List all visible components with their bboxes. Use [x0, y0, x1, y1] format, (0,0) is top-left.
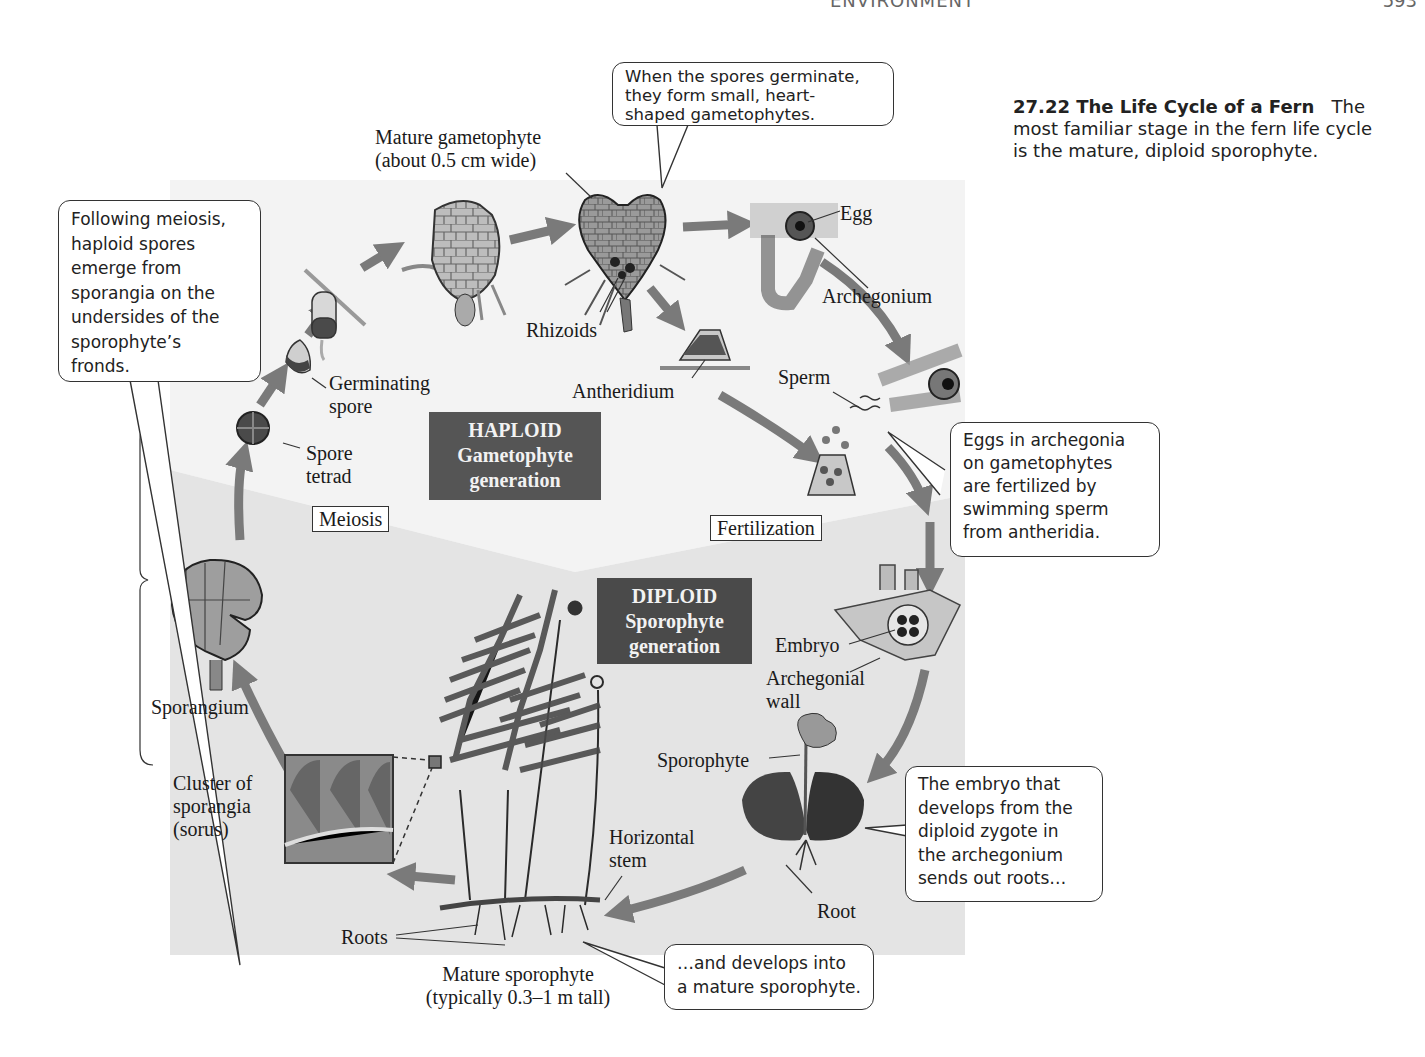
- label-line: Cluster of: [173, 772, 252, 795]
- antheridium-label: Antheridium: [572, 380, 674, 403]
- callout-meiosis: Following meiosis, haploid spores emerge…: [58, 200, 261, 382]
- sperm-label: Sperm: [778, 366, 830, 389]
- label-line: Germinating: [329, 372, 430, 395]
- callout-line: a mature sporophyte.: [677, 975, 861, 999]
- mature-sporophyte-label: Mature sporophyte (typically 0.3–1 m tal…: [413, 963, 623, 1009]
- callout-line: fronds.: [71, 354, 248, 379]
- callout-line: are fertilized by: [963, 475, 1147, 498]
- label-line: Horizontal: [609, 826, 695, 849]
- callout-line: they form small, heart-: [625, 86, 881, 105]
- gen-line: DIPLOID: [597, 584, 752, 609]
- archegonium-label: Archegonium: [822, 285, 932, 308]
- label-line: spore: [329, 395, 430, 418]
- root-label: Root: [817, 900, 856, 923]
- embryo-label: Embryo: [775, 634, 839, 657]
- label-line: (sorus): [173, 818, 252, 841]
- label-line: tetrad: [306, 465, 353, 488]
- callout-line: shaped gametophytes.: [625, 105, 881, 124]
- spore-tetrad-label: Spore tetrad: [306, 442, 353, 488]
- callout-line: diploid zygote in: [918, 820, 1090, 844]
- label-line: sporangia: [173, 795, 252, 818]
- gen-line: generation: [597, 634, 752, 659]
- callout-line: the archegonium: [918, 844, 1090, 868]
- callout-embryo: The embryo that develops from the diploi…: [905, 766, 1103, 902]
- callout-line: Following meiosis,: [71, 207, 248, 232]
- roots-label: Roots: [341, 926, 388, 949]
- germinating-spore-label: Germinating spore: [329, 372, 430, 418]
- diploid-generation-label: DIPLOID Sporophyte generation: [597, 578, 752, 664]
- haploid-generation-label: HAPLOID Gametophyte generation: [429, 412, 601, 500]
- callout-line: haploid spores: [71, 232, 248, 257]
- callout-line: When the spores germinate,: [625, 67, 881, 86]
- callout-line: sends out roots…: [918, 867, 1090, 891]
- callout-line: from antheridia.: [963, 521, 1147, 544]
- callout-line: sporophyte’s: [71, 330, 248, 355]
- meiosis-step-label: Meiosis: [312, 506, 389, 532]
- horizontal-stem-label: Horizontal stem: [609, 826, 695, 872]
- label-line: Mature gametophyte: [375, 126, 541, 149]
- gen-line: Sporophyte: [597, 609, 752, 634]
- spore-tetrad-illustration: [237, 412, 269, 444]
- callout-line: emerge from: [71, 256, 248, 281]
- label-line: wall: [766, 690, 865, 713]
- callout-fertilized: Eggs in archegonia on gametophytes are f…: [950, 422, 1160, 557]
- callout-line: Eggs in archegonia: [963, 429, 1147, 452]
- callout-develops: …and develops into a mature sporophyte.: [664, 944, 874, 1010]
- callout-line: on gametophytes: [963, 452, 1147, 475]
- callout-line: …and develops into: [677, 951, 861, 975]
- callout-line: swimming sperm: [963, 498, 1147, 521]
- sporophyte-label: Sporophyte: [657, 749, 749, 772]
- fertilization-step-label: Fertilization: [710, 515, 822, 541]
- label-line: Spore: [306, 442, 353, 465]
- sporangium-label: Sporangium: [151, 696, 249, 719]
- cluster-label: Cluster of sporangia (sorus): [173, 772, 252, 841]
- rhizoids-label: Rhizoids: [526, 319, 597, 342]
- label-line: (typically 0.3–1 m tall): [413, 986, 623, 1009]
- archegonial-wall-label: Archegonial wall: [766, 667, 865, 713]
- gen-line: generation: [429, 468, 601, 493]
- mature-gametophyte-label: Mature gametophyte (about 0.5 cm wide): [375, 126, 541, 172]
- label-line: stem: [609, 849, 695, 872]
- callout-line: undersides of the: [71, 305, 248, 330]
- label-line: (about 0.5 cm wide): [375, 149, 541, 172]
- egg-label: Egg: [840, 202, 872, 225]
- callout-germinate: When the spores germinate, they form sma…: [612, 62, 894, 126]
- label-line: Archegonial: [766, 667, 865, 690]
- gen-line: Gametophyte: [429, 443, 601, 468]
- gen-line: HAPLOID: [429, 418, 601, 443]
- callout-line: develops from the: [918, 797, 1090, 821]
- callout-line: sporangia on the: [71, 281, 248, 306]
- callout-line: The embryo that: [918, 773, 1090, 797]
- label-line: Mature sporophyte: [413, 963, 623, 986]
